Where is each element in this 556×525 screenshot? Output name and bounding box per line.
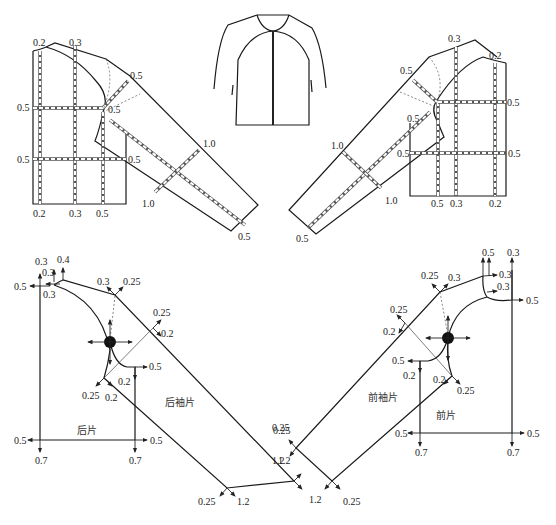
grading-label: 0.3: [42, 267, 55, 278]
grading-label: 1.2: [309, 494, 322, 505]
pattern-line: [410, 63, 506, 196]
pattern-line: [104, 328, 153, 378]
grading-label: 0.5: [296, 233, 309, 244]
back-grading-diagram: 0.3 0.4 0.3 0.5 0.3 0.3 0.25 0.25 0.2 0.…: [14, 254, 302, 507]
grading-label: 0.25: [421, 270, 439, 281]
grading-arrow: [294, 474, 301, 481]
grading-label: 0.5: [395, 428, 408, 439]
grading-label: 0.5: [431, 198, 444, 209]
grading-label: 0.3: [69, 37, 82, 48]
grading-arrow: [483, 275, 497, 276]
grading-label: 0.25: [123, 276, 141, 287]
grading-label: 0.5: [14, 281, 27, 292]
grading-arrow: [325, 481, 332, 489]
grading-label: 0.3: [497, 281, 510, 292]
grading-label: 0.3: [97, 276, 110, 287]
grading-arrow: [153, 320, 161, 328]
grading-label: 0.2: [383, 326, 396, 337]
grading-label: 0.25: [390, 304, 408, 315]
pattern-line: [33, 51, 126, 204]
pattern-line: [311, 80, 312, 92]
grading-label: 0.5: [507, 97, 520, 108]
grading-label: 0.5: [400, 65, 413, 76]
grading-label: 0.5: [508, 148, 521, 159]
grading-label: 1.2: [237, 496, 250, 507]
grading-label: 0.5: [527, 428, 540, 439]
pattern-line: [343, 152, 381, 188]
pattern-line: [232, 85, 233, 95]
grading-label: 后片: [77, 424, 97, 436]
grading-label: 0.5: [149, 361, 162, 372]
pattern-line: [214, 15, 257, 89]
grading-arrow: [397, 315, 405, 323]
pattern-line: [257, 15, 289, 31]
grading-arrow: [96, 378, 104, 386]
grading-label: 0.3: [43, 289, 56, 300]
grading-label: 0.5: [17, 154, 30, 165]
pattern-line: [289, 40, 506, 234]
grading-label: 0.2: [33, 37, 46, 48]
grading-label: 后袖片: [165, 396, 195, 408]
grading-label: 0.5: [407, 113, 420, 124]
grading-arrow: [220, 488, 227, 496]
grading-arrow: [332, 481, 340, 489]
grading-label: 0.25: [198, 496, 216, 507]
grading-label: 0.25: [457, 385, 475, 396]
grading-arrow: [104, 378, 112, 386]
grading-arrow: [289, 440, 296, 448]
grading-label: 0.7: [507, 447, 520, 458]
grading-label: 0.25: [153, 307, 171, 318]
grading-label: 0.3: [69, 208, 82, 219]
grading-label: 0.2: [118, 376, 131, 387]
grading-label: 0.3: [499, 269, 512, 280]
grading-label: 0.5: [526, 295, 539, 306]
grading-label: 1.0: [142, 198, 155, 209]
pattern-line: [429, 57, 440, 100]
grading-label: 0.3: [448, 33, 461, 44]
grading-label: 1.0: [385, 195, 398, 206]
pattern-line: [257, 15, 326, 88]
grading-arrow: [227, 488, 235, 496]
grading-label: 0.5: [130, 70, 143, 81]
grading-arrow: [290, 448, 296, 456]
grading-label: 0.5: [96, 208, 109, 219]
front-grading-diagram: 0.5 0.3 0.3 0.3 0.5 0.25 0.3 0.25 0.2 0.…: [272, 247, 540, 507]
pattern-diagram: 0.2 0.3 0.5 0.5 0.5 0.5 0.5 0.2 0.3 0.5 …: [0, 0, 556, 525]
grading-label: 0.5: [392, 355, 405, 366]
grading-label: 前袖片: [368, 391, 398, 403]
grading-arrow: [153, 328, 161, 336]
grading-label: 0.2: [433, 374, 446, 385]
grading-label: 0.5: [128, 154, 141, 165]
pattern-line: [54, 280, 294, 488]
grading-label: 0.2: [33, 208, 46, 219]
grading-label: 前片: [436, 409, 456, 421]
grading-label: 0.5: [238, 231, 251, 242]
top-right-pattern: 0.3 0.2 0.5 0.5 0.5 0.5 0.5 0.5 0.3 0.2 …: [289, 33, 521, 244]
grading-label: 0.3: [507, 247, 520, 258]
pattern-line: [40, 285, 135, 440]
pattern-line: [420, 270, 512, 433]
grading-arrow: [432, 284, 440, 292]
grading-label: 0.5: [14, 435, 27, 446]
grading-label: 0.25: [343, 496, 361, 507]
grading-label: 0.2: [489, 50, 502, 61]
grading-label: 0.5: [397, 148, 410, 159]
grading-label: 0.3: [448, 272, 461, 283]
grading-label: 0.7: [35, 455, 48, 466]
grading-label: 0.25: [82, 390, 100, 401]
grading-label: 0.5: [108, 104, 121, 115]
grading-label: 0.3: [450, 198, 463, 209]
grading-arrow: [115, 287, 123, 295]
grading-label: 0.25: [272, 422, 290, 433]
grading-label: 0.5: [17, 102, 30, 113]
grading-label: 0.7: [415, 447, 428, 458]
grading-arrow: [487, 291, 497, 292]
grading-label: 0.7: [129, 455, 142, 466]
grading-label: 1.0: [203, 138, 216, 149]
grading-arrow: [452, 376, 460, 384]
grading-label: 0.4: [57, 254, 70, 265]
grading-label: 0.2: [161, 328, 174, 339]
grading-label: 0.3: [35, 256, 48, 267]
grading-label: 0.2: [403, 370, 416, 381]
grading-label: 1.2: [272, 455, 285, 466]
